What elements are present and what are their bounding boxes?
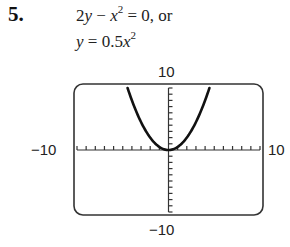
graphing-calculator-screen (0, 0, 290, 247)
